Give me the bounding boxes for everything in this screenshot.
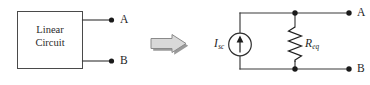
terminal-label-a-right: A (357, 7, 365, 19)
linear-circuit-box-label: Linear Circuit (18, 24, 82, 49)
circuit-diagram-canvas: Linear Circuit A B Isc Req A B (0, 0, 370, 85)
terminal-dot-b-right (346, 66, 351, 71)
resistor-symbol: R (305, 37, 312, 49)
junction-dot-bottom (292, 66, 297, 71)
resistor-zigzag-icon (289, 27, 302, 62)
terminal-dot-a-left (109, 17, 114, 22)
resistor-label: Req (305, 38, 319, 50)
box-label-line-1: Linear (18, 24, 82, 37)
right-block-arrow-icon (151, 35, 188, 55)
current-source-label: Isc (214, 38, 224, 50)
box-label-line-2: Circuit (18, 37, 82, 50)
terminal-label-b-right: B (357, 63, 365, 75)
resistor-subscript: eq (312, 43, 319, 51)
terminal-label-b-left: B (120, 55, 128, 67)
terminal-label-a-left: A (120, 14, 128, 26)
current-source-icon (229, 33, 252, 56)
current-source-subscript: sc (218, 43, 224, 51)
terminal-dot-b-left (109, 58, 114, 63)
terminal-dot-a-right (346, 10, 351, 15)
junction-dot-top (292, 10, 297, 15)
